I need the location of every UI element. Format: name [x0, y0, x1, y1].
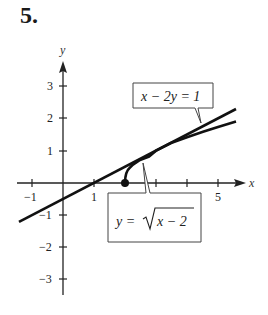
graph: −1 1 2 3 4 5 3 2 1 −1 −2 −3 x y x − 2y =… [0, 0, 268, 315]
sqrt-equation-lhs: y = [114, 214, 135, 229]
x-axis-label: x [248, 176, 255, 190]
start-point-2-0 [121, 179, 129, 187]
y-tick-label: 3 [47, 79, 53, 93]
x-tick-label: −1 [24, 190, 37, 204]
line-equation-callout: x − 2y = 1 [133, 83, 213, 123]
sqrt-radicand: x − 2 [156, 214, 187, 229]
line-equation-label: x − 2y = 1 [140, 89, 200, 104]
curve-sqrt-x-minus-2 [125, 122, 236, 183]
y-tick-label: 1 [47, 144, 53, 158]
y-tick-label: 2 [47, 111, 53, 125]
sqrt-equation-callout: y = x − 2 [108, 163, 201, 242]
y-axis-label: y [59, 43, 66, 57]
y-tick-label: −3 [39, 272, 52, 286]
x-tick-label: 1 [91, 190, 97, 204]
x-tick-label: 5 [215, 190, 221, 204]
y-tick-label: −2 [39, 240, 52, 254]
